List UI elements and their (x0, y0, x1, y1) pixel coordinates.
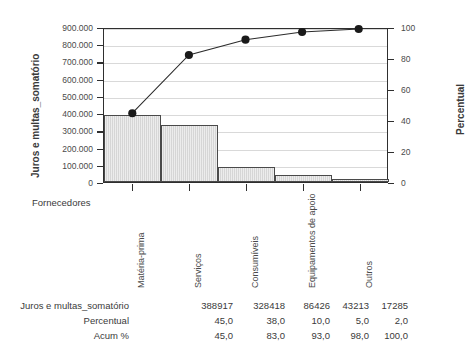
x-axis-tick (360, 184, 361, 191)
cumulative-line-layer (104, 29, 387, 182)
y-axis-tick-label: 400.000 (45, 109, 93, 119)
table-cell: 2,0 (356, 315, 408, 326)
y2-axis-tick-label: 0 (401, 178, 406, 188)
table-cell: 17285 (356, 300, 408, 311)
y-axis-tick-label: 800.000 (45, 40, 93, 50)
y-axis-tick-label: 200.000 (45, 144, 93, 154)
y2-axis-tick-label: 80 (401, 54, 410, 64)
y-axis-tick-label: 900.000 (45, 23, 93, 33)
y-axis-tick (97, 45, 103, 46)
table-row-label: Percentual (84, 315, 129, 326)
y-axis-tick (97, 183, 103, 184)
cumulative-marker (185, 51, 193, 59)
table-row-label: Acum % (94, 330, 129, 341)
y-axis-tick-label: 100.000 (45, 161, 93, 171)
category-label: Serviços (193, 253, 203, 288)
y-axis-tick-label: 600.000 (45, 75, 93, 85)
category-label: Consumíveis (250, 236, 260, 288)
y2-axis-tick (388, 28, 394, 29)
y-axis-tick-label: 0 (45, 178, 93, 188)
x-axis-tick (189, 184, 190, 191)
y-axis-title: Juros e multas_somatório (30, 54, 41, 178)
table-row: Percentual45,038,010,05,02,0 (0, 315, 476, 330)
pareto-chart: Juros e multas_somatório Percentual Forn… (0, 0, 476, 361)
y2-axis-tick (388, 152, 394, 153)
y2-axis-tick (388, 90, 394, 91)
table-cell: 100,0 (356, 330, 408, 341)
y-axis-tick-label: 700.000 (45, 57, 93, 67)
table-cell: 388917 (181, 300, 233, 311)
y2-axis-tick-label: 40 (401, 116, 410, 126)
cumulative-marker (128, 109, 136, 117)
y2-axis-tick (388, 59, 394, 60)
y2-axis-title: Percentual (455, 84, 466, 135)
y-axis-tick (97, 149, 103, 150)
y-axis-tick (97, 80, 103, 81)
y-axis-tick-label: 500.000 (45, 92, 93, 102)
y-axis-tick (97, 97, 103, 98)
table-cell: 45,0 (181, 330, 233, 341)
y2-axis-tick (388, 121, 394, 122)
x-axis-tick (303, 184, 304, 191)
table-row-label: Juros e multas_somatório (20, 300, 129, 311)
y2-axis-tick-label: 20 (401, 147, 410, 157)
cumulative-marker (241, 36, 249, 44)
x-axis-tick (132, 184, 133, 191)
y2-axis-tick-label: 60 (401, 85, 410, 95)
category-label: Outros (364, 261, 374, 288)
category-label: Matéria-prima (136, 232, 146, 288)
y-axis-tick-label: 300.000 (45, 126, 93, 136)
table-row: Acum %45,083,093,098,0100,0 (0, 330, 476, 345)
cumulative-marker (355, 25, 363, 33)
category-label: Equipamentos de apoio (307, 193, 317, 288)
y-axis-tick (97, 62, 103, 63)
x-axis-title: Fornecedores (32, 198, 91, 208)
plot-area (103, 28, 388, 183)
y2-axis-tick-label: 100 (401, 23, 415, 33)
table-row: Juros e multas_somatório3889173284188642… (0, 300, 476, 315)
data-table: Juros e multas_somatório3889173284188642… (0, 300, 476, 345)
x-axis-tick (246, 184, 247, 191)
y-axis-tick (97, 166, 103, 167)
y-axis-tick (97, 28, 103, 29)
cumulative-marker (298, 28, 306, 36)
y2-axis-tick (388, 183, 394, 184)
table-cell: 45,0 (181, 315, 233, 326)
y-axis-tick (97, 114, 103, 115)
y-axis-tick (97, 131, 103, 132)
